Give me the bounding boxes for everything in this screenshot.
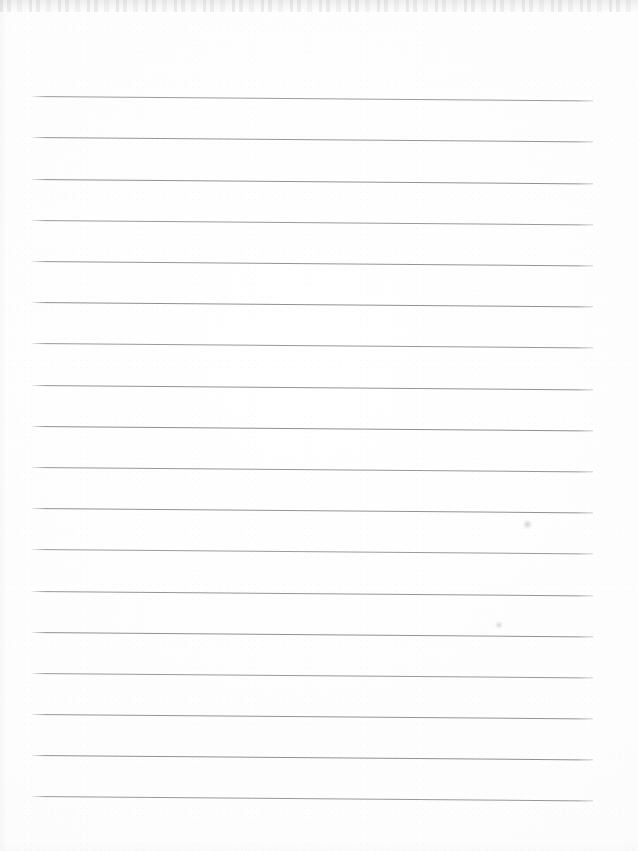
rule-line [32, 343, 593, 348]
rule-line [32, 796, 593, 801]
rule-line [32, 467, 593, 472]
rule-line [32, 755, 593, 760]
scanned-page [0, 0, 638, 851]
rule-line [32, 137, 593, 142]
rule-line [32, 591, 593, 596]
rule-line [32, 179, 593, 184]
rule-line [32, 96, 593, 101]
ruled-lines-layer [0, 0, 638, 851]
rule-line [32, 426, 593, 431]
rule-line [32, 220, 593, 225]
rule-line [32, 261, 593, 266]
rule-line [32, 508, 593, 513]
rule-line [32, 302, 593, 307]
rule-line [32, 673, 593, 678]
rule-line [32, 632, 593, 637]
rule-line [32, 549, 593, 554]
rule-line [32, 385, 593, 390]
rule-line [32, 714, 593, 719]
